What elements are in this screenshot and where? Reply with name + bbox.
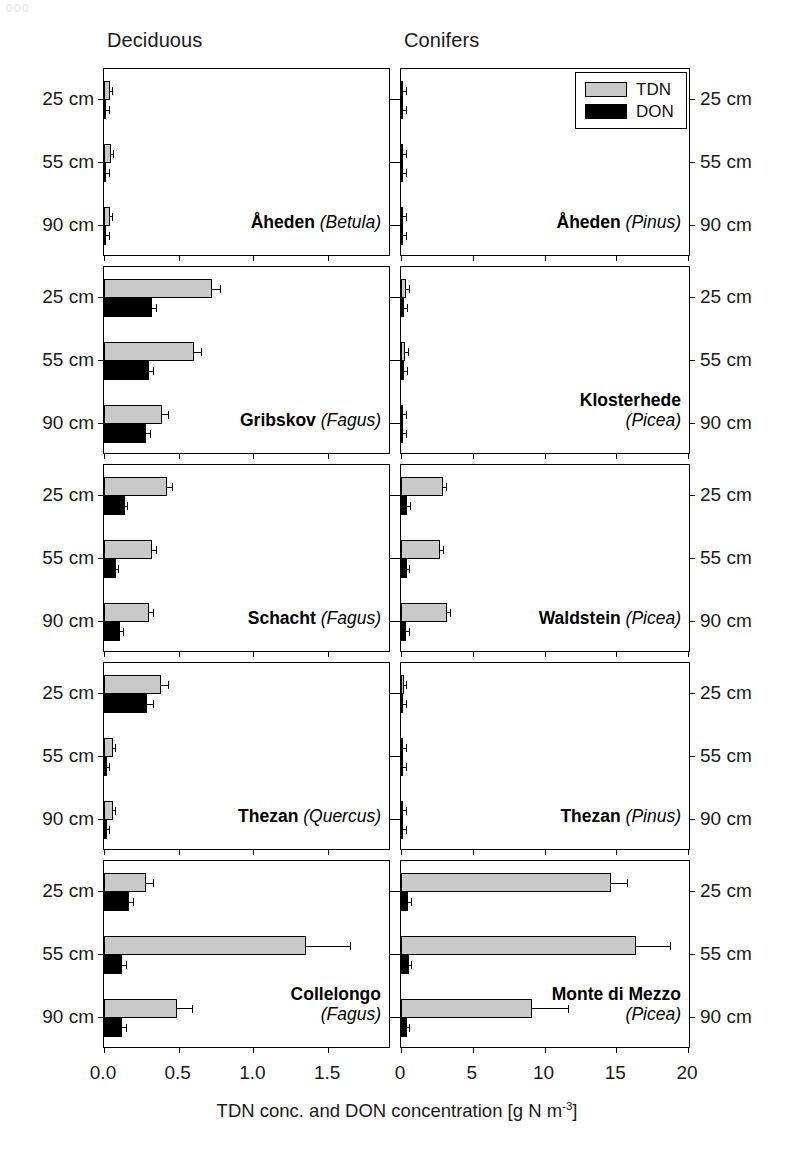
bar-tdn-25cm (104, 477, 167, 496)
error-bar-don-90cm (403, 433, 406, 434)
panel-thezan-pinus: Thezan (Pinus) (400, 662, 690, 850)
y-tick-right-55cm (689, 558, 695, 559)
legend-row-don: DON (585, 102, 676, 121)
x-tick-3 (616, 651, 617, 657)
depth-label-left-90cm: 90 cm (24, 809, 94, 828)
legend-label-tdn: TDN (636, 81, 671, 98)
x-axis-title: TDN conc. and DON concentration [g N m-3… (0, 1100, 794, 1122)
error-bar-don-55cm (116, 569, 119, 570)
error-bar-tdn-25cm (161, 685, 168, 686)
x-tick-4 (688, 849, 689, 855)
panel-waldstein-picea: Waldstein (Picea) (400, 464, 690, 652)
x-tick-0 (104, 1047, 105, 1053)
site-name: Klosterhede (580, 390, 681, 410)
error-bar-tdn-25cm (403, 91, 406, 92)
y-tick-right-55cm (689, 954, 695, 955)
site-name: Monte di Mezzo (552, 984, 681, 1004)
error-bar-cap (406, 213, 407, 221)
depth-label-right-55cm: 55 cm (700, 548, 780, 567)
x-tick-1 (473, 255, 474, 261)
error-bar-tdn-90cm (177, 1008, 192, 1009)
y-tick-right-25cm (689, 693, 695, 694)
depth-label-right-55cm: 55 cm (700, 152, 780, 171)
error-bar-tdn-90cm (149, 612, 153, 613)
site-name: Thezan (560, 806, 620, 826)
legend-swatch-don-icon (585, 104, 627, 119)
error-bar-cap (670, 942, 671, 950)
depth-label-left-25cm: 25 cm (24, 683, 94, 702)
figure-root: 000 Deciduous Conifers Åheden (Betula)25… (0, 0, 794, 1165)
x-axis-title-tail: ] (572, 1100, 577, 1121)
x-tick-label-conifers-1: 5 (466, 1062, 477, 1084)
depth-label-right-55cm: 55 cm (700, 350, 780, 369)
y-tick-right-55cm (689, 756, 695, 757)
x-tick-1 (473, 453, 474, 459)
error-bar-tdn-90cm (113, 810, 116, 811)
error-bar-cap (126, 1024, 127, 1032)
depth-label-left-25cm: 25 cm (24, 287, 94, 306)
x-axis-title-main: TDN conc. and DON concentration [g N m (217, 1100, 562, 1121)
error-bar-cap (627, 879, 628, 887)
x-tick-3 (328, 651, 329, 657)
error-bar-cap (126, 961, 127, 969)
legend: TDN DON (575, 72, 687, 129)
error-bar-cap (409, 565, 410, 573)
error-bar-cap (406, 700, 407, 708)
error-bar-cap (109, 763, 110, 771)
error-bar-tdn-55cm (194, 352, 201, 353)
site-species: (Betula) (315, 212, 381, 232)
depth-label-left-55cm: 55 cm (24, 350, 94, 369)
depth-label-right-25cm: 25 cm (700, 485, 780, 504)
depth-label-left-90cm: 90 cm (24, 1007, 94, 1026)
depth-label-right-25cm: 25 cm (700, 683, 780, 702)
error-bar-don-90cm (122, 1027, 126, 1028)
error-bar-don-25cm (403, 704, 406, 705)
depth-label-right-90cm: 90 cm (700, 1007, 780, 1026)
error-bar-cap (406, 169, 407, 177)
bar-tdn-55cm (104, 540, 152, 559)
bar-tdn-55cm (104, 738, 113, 757)
x-tick-0 (104, 849, 105, 855)
site-caption: Waldstein (Picea) (539, 608, 681, 629)
error-bar-don-55cm (409, 965, 412, 966)
site-name: Waldstein (539, 608, 621, 628)
error-bar-don-25cm (152, 308, 156, 309)
x-tick-0 (104, 453, 105, 459)
x-tick-2 (253, 651, 254, 657)
x-tick-label-conifers-2: 10 (533, 1062, 554, 1084)
y-tick-right-25cm (689, 495, 695, 496)
error-bar-don-55cm (407, 569, 410, 570)
y-tick-right-25cm (689, 891, 695, 892)
error-bar-cap (406, 681, 407, 689)
error-bar-cap (109, 169, 110, 177)
x-tick-0 (401, 255, 402, 261)
error-bar-cap (406, 826, 407, 834)
x-tick-3 (328, 1047, 329, 1053)
bar-don-55cm (104, 955, 122, 974)
y-tick-right-90cm (689, 225, 695, 226)
error-bar-don-90cm (403, 829, 406, 830)
panel-collelongo-fagus: Collelongo (Fagus) (103, 860, 390, 1048)
site-species: (Pinus) (621, 806, 681, 826)
error-bar-don-90cm (107, 829, 110, 830)
error-bar-cap (153, 367, 154, 375)
error-bar-tdn-25cm (212, 289, 221, 290)
error-bar-don-55cm (403, 173, 406, 174)
x-tick-3 (616, 849, 617, 855)
site-name: Schacht (248, 608, 316, 628)
depth-label-left-90cm: 90 cm (24, 215, 94, 234)
error-bar-tdn-25cm (404, 685, 407, 686)
bar-tdn-25cm (401, 873, 611, 892)
bar-don-55cm (104, 559, 116, 578)
error-bar-cap (109, 232, 110, 240)
site-caption: Thezan (Pinus) (560, 806, 681, 827)
error-bar-don-25cm (106, 110, 109, 111)
x-tick-label-deciduous-0: 0.0 (90, 1062, 116, 1084)
error-bar-cap (192, 1005, 193, 1013)
x-tick-1 (473, 651, 474, 657)
depth-label-right-55cm: 55 cm (700, 746, 780, 765)
panel-thezan-quercus: Thezan (Quercus) (103, 662, 390, 850)
error-bar-cap (220, 285, 221, 293)
bar-tdn-25cm (104, 279, 212, 298)
bar-tdn-55cm (104, 342, 194, 361)
